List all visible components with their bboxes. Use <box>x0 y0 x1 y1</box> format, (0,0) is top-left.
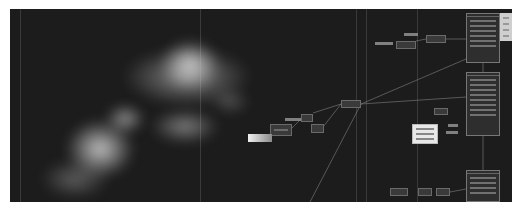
sticky-note[interactable] <box>412 124 438 144</box>
node-param <box>274 129 288 131</box>
node-title <box>271 125 291 127</box>
node-title <box>391 189 407 191</box>
node-title <box>342 101 360 103</box>
parameter-panel[interactable] <box>466 72 500 136</box>
side-panel-line <box>503 35 509 37</box>
panel-param[interactable] <box>470 20 496 22</box>
gradient-ramp[interactable] <box>248 134 272 142</box>
panel-title <box>467 14 499 17</box>
panel-title <box>467 73 499 76</box>
side-panel-line <box>503 17 509 19</box>
panel-param[interactable] <box>470 99 496 101</box>
node-title <box>397 42 415 44</box>
graph-node[interactable] <box>270 124 292 136</box>
panel-param[interactable] <box>470 30 496 32</box>
panel-param[interactable] <box>470 192 496 194</box>
graph-node[interactable] <box>396 41 416 49</box>
graph-node[interactable] <box>311 124 324 133</box>
panel-param[interactable] <box>470 182 496 184</box>
panel-param[interactable] <box>470 79 496 81</box>
panel-param[interactable] <box>470 187 496 189</box>
panel-param[interactable] <box>470 104 496 106</box>
panel-param[interactable] <box>470 109 496 111</box>
note-line <box>416 138 434 140</box>
node-title <box>312 125 323 127</box>
panel-param[interactable] <box>470 114 496 116</box>
note-line <box>416 133 434 135</box>
node-label <box>446 131 458 134</box>
panel-param[interactable] <box>470 40 496 42</box>
node-title <box>437 189 449 191</box>
panel-param[interactable] <box>470 177 496 179</box>
side-panel-line <box>503 23 509 25</box>
panel-param[interactable] <box>470 84 496 86</box>
graph-node[interactable] <box>341 100 361 108</box>
parameter-panel[interactable] <box>466 13 500 63</box>
panel-param[interactable] <box>470 35 496 37</box>
panel-title <box>467 171 499 174</box>
node-title <box>419 189 431 191</box>
graph-node[interactable] <box>301 114 313 122</box>
panel-param[interactable] <box>470 89 496 91</box>
node-title <box>302 115 312 117</box>
graph-node[interactable] <box>418 188 432 196</box>
node-title <box>435 109 447 111</box>
panel-param[interactable] <box>470 45 496 47</box>
graph-node[interactable] <box>434 108 448 115</box>
node-label <box>375 42 393 45</box>
graph-node[interactable] <box>426 35 446 43</box>
panel-param[interactable] <box>470 94 496 96</box>
graph-node[interactable] <box>436 188 450 196</box>
parameter-panel[interactable] <box>466 170 500 202</box>
node-graph-canvas[interactable] <box>10 9 512 202</box>
side-info-panel[interactable] <box>500 13 512 41</box>
note-line <box>416 128 434 130</box>
node-label <box>448 124 458 127</box>
node-label <box>285 118 301 121</box>
panel-param[interactable] <box>470 25 496 27</box>
side-panel-line <box>503 29 509 31</box>
node-label <box>404 33 418 36</box>
node-title <box>427 36 445 38</box>
graph-node[interactable] <box>390 188 408 196</box>
